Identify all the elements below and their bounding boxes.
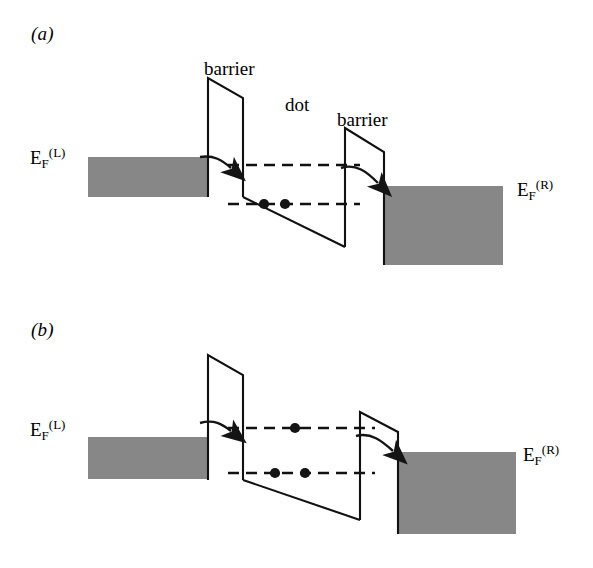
fermi-superscript: (R) (542, 442, 559, 457)
fermi-superscript: (R) (536, 177, 553, 192)
panel-a-tunnel-out-arrow (341, 167, 378, 183)
energy-band-diagram (0, 0, 593, 568)
fermi-base: E (523, 444, 535, 465)
panel-a-electron (259, 199, 269, 209)
fermi-base: E (30, 147, 42, 168)
fermi-base: E (30, 419, 42, 440)
fermi-base: E (517, 179, 529, 200)
panel-b-right-barrier (360, 412, 398, 534)
panel-b-graphics (88, 355, 516, 534)
panel-a-fermi-right-label: EF(R) (517, 178, 553, 202)
panel-a-fermi-left-label: EF(L) (30, 146, 65, 170)
panel-b-right-reservoir (398, 452, 516, 534)
panel-a-left-reservoir (88, 157, 208, 197)
panel-a-left-barrier (208, 78, 243, 197)
fermi-superscript: (L) (49, 145, 66, 160)
panel-b-electron (270, 468, 280, 478)
panel-b-letter: (b) (31, 320, 54, 339)
panel-b-fermi-right-label: EF(R) (523, 443, 559, 467)
panel-a-right-barrier (345, 128, 384, 265)
panel-b-tunnel-out-arrow (356, 435, 393, 451)
panel-b-left-reservoir (88, 437, 208, 479)
fermi-subscript: F (42, 156, 49, 171)
panel-b-left-barrier (208, 355, 243, 480)
panel-a-electron (280, 199, 290, 209)
panel-b-electron (290, 423, 300, 433)
panel-a-letter: (a) (31, 24, 54, 43)
figure-container: (a) barrier dot barrier EF(L) EF(R) (b) … (0, 0, 593, 568)
panel-a-right-reservoir (384, 186, 503, 265)
fermi-subscript: F (535, 453, 542, 468)
panel-a-well-bottom (243, 197, 345, 247)
fermi-superscript: (L) (49, 417, 66, 432)
panel-b-tunnel-in-arrow (200, 422, 231, 431)
panel-a-barrier-left-label: barrier (204, 59, 255, 78)
fermi-subscript: F (529, 188, 536, 203)
fermi-subscript: F (42, 428, 49, 443)
panel-b-well-bottom (243, 480, 360, 520)
panel-a-dot-label: dot (285, 95, 309, 114)
panel-b-fermi-left-label: EF(L) (30, 418, 65, 442)
panel-a-barrier-right-label: barrier (337, 110, 388, 129)
panel-b-electron (300, 468, 310, 478)
